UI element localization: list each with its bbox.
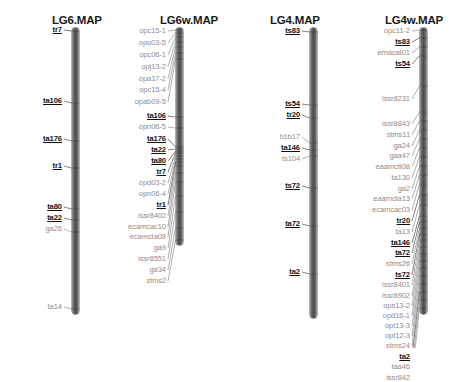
- marker-label-lg4w-tr20: tr20: [0, 217, 410, 225]
- leader-line-lg4w-ecamcac03: [412, 184, 420, 210]
- leader-line-lg4w-tr20: [412, 195, 420, 221]
- leader-line-lg4w-ts72: [412, 234, 420, 275]
- marker-label-lg4w-taa46: taa46: [0, 363, 410, 371]
- leader-line-lg4w-issr8902: [412, 247, 420, 296]
- marker-label-lg4w-eaamctt08: eaamctt08: [0, 163, 410, 171]
- marker-label-lg6w-opa17-2: opa17-2: [0, 75, 166, 83]
- map-title-lg4: LG4.MAP: [270, 14, 320, 26]
- marker-label-lg4w-ecamcac03: ecamcac03: [0, 206, 410, 214]
- marker-label-lg4w-issr842: issr842: [0, 374, 410, 382]
- leader-line-lg4w-issr842: [412, 308, 420, 348]
- marker-label-lg4w-ga24: ga24: [0, 142, 410, 150]
- leader-line-lg4w-ta130: [412, 157, 420, 178]
- marker-label-lg4-tr20: tr20: [0, 111, 300, 119]
- leader-line-lg4w-ta146: [412, 216, 420, 243]
- leader-line-lg4-ts54: [302, 104, 310, 105]
- leader-line-lg4w-ts83: [412, 38, 420, 42]
- marker-label-lg4w-issr8902: issr8902: [0, 292, 410, 300]
- marker-label-lg4w-opt12-3: opt12-3: [0, 332, 410, 340]
- leader-line-lg4w-ts54: [412, 56, 420, 64]
- marker-label-lg4w-ops13-2: ops13-2: [0, 302, 410, 310]
- marker-label-lg4w-opd16-1: opd16-1: [0, 312, 410, 320]
- leader-line-lg4w-stms24: [412, 284, 420, 346]
- marker-label-lg4w-ta13: ta13: [0, 228, 410, 236]
- leader-line-lg4w-ops13-2: [412, 254, 420, 306]
- marker-label-lg4w-ta130: ta130: [0, 174, 410, 182]
- marker-label-lg4w-eaamcta13: eaamcta13: [0, 195, 410, 203]
- map-title-lg4w: LG4w.MAP: [385, 14, 443, 26]
- chromosome-bar-lg4w: [420, 28, 427, 314]
- marker-label-lg6w-opc15-4: opc15-4: [0, 86, 166, 94]
- leader-line-lg4w-issr8231: [412, 86, 420, 99]
- marker-label-lg4w-ts72: ts72: [0, 271, 410, 279]
- leader-line-lg4w-eaamcta13: [412, 175, 420, 199]
- leader-line-lg4w-issr8401: [412, 240, 420, 285]
- marker-label-lg4w-gaa47: gaa47: [0, 152, 410, 160]
- leader-line-lg4w-opt12-3: [412, 276, 420, 336]
- leader-line-lg4w-eaamctt08: [412, 148, 420, 167]
- marker-label-lg4w-stms26: stms26: [0, 260, 410, 268]
- marker-label-lg4w-opt13-3: opt13-3: [0, 322, 410, 330]
- leader-line-lg4w-opd16-1: [412, 261, 420, 316]
- marker-label-lg4w-stms24: stms24: [0, 342, 410, 350]
- marker-label-lg4w-issr8401: issr8401: [0, 281, 410, 289]
- leader-line-lg4-tr20: [302, 115, 310, 118]
- leader-line-lg4w-taa46: [412, 300, 420, 348]
- marker-label-lg4w-emacat01: emacat01: [0, 49, 410, 57]
- marker-label-lg4w-ga2: ga2: [0, 185, 410, 193]
- leader-line-lg4w-ga2: [412, 166, 420, 189]
- leader-line-lg4w-gaa47: [412, 139, 420, 156]
- marker-label-lg4w-ta72: ta72: [0, 249, 410, 257]
- marker-label-lg4w-ts83: ts83: [0, 38, 410, 46]
- leader-line-lg6w-opc15-4: [168, 53, 176, 90]
- leader-line-lg4w-stms26: [412, 228, 420, 264]
- map-title-lg6w: LG6w.MAP: [160, 14, 218, 26]
- leader-line-lg4w-opt13-3: [412, 268, 420, 326]
- marker-label-lg4w-ta146: ta146: [0, 239, 410, 247]
- marker-label-lg4w-opc11-2: opc11-2: [0, 27, 410, 35]
- leader-line-lg4w-stms11: [412, 121, 420, 135]
- leader-line-lg4w-ta72: [412, 222, 420, 253]
- marker-label-lg4w-issr8231: issr8231: [0, 95, 410, 103]
- leader-line-lg4w-emacat01: [412, 47, 420, 53]
- leader-line-lg4w-ta13: [412, 205, 420, 232]
- leader-line-lg4w-opc11-2: [412, 30, 420, 31]
- marker-label-lg4w-stms11: stms11: [0, 131, 410, 139]
- marker-label-lg4w-issr8843: issr8843: [0, 120, 410, 128]
- marker-label-lg4w-ta2: ta2: [0, 353, 410, 361]
- leader-line-lg4w-ga24: [412, 130, 420, 146]
- leader-line-lg4w-ta2: [412, 292, 420, 348]
- leader-line-lg4w-issr8843: [412, 112, 420, 124]
- marker-label-lg4w-ts54: ts54: [0, 60, 410, 68]
